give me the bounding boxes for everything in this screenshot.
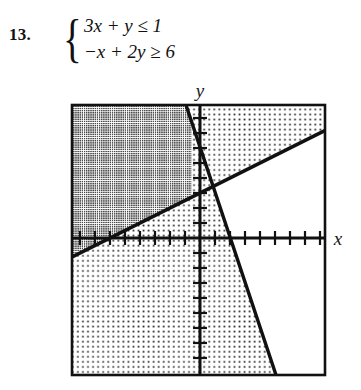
inequality-1: 3x + y ≤ 1 (84, 13, 175, 39)
coordinate-plane: y x (0, 82, 361, 390)
system-brace: { (63, 12, 82, 66)
inequality-2: −x + 2y ≥ 6 (84, 39, 175, 65)
inequality-list: 3x + y ≤ 1 −x + 2y ≥ 6 (84, 13, 175, 65)
problem-header: 13. { 3x + y ≤ 1 −x + 2y ≥ 6 (0, 0, 361, 82)
problem-number: 13. (9, 26, 31, 43)
graph-figure: y x (0, 82, 361, 390)
y-axis-label: y (194, 82, 205, 101)
x-axis-label: x (333, 228, 343, 249)
